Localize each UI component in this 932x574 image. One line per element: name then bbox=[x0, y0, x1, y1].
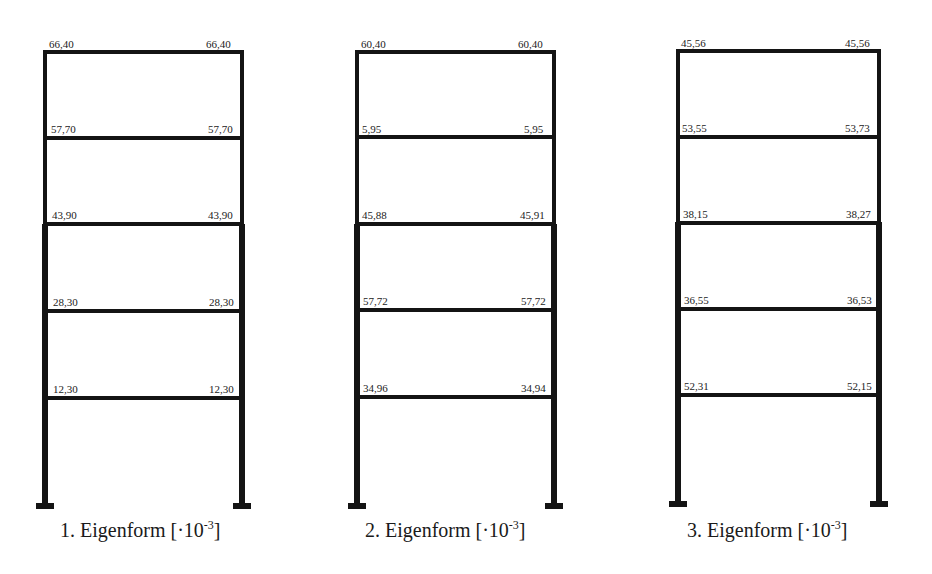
value-left-floor-4: 53,55 bbox=[682, 123, 707, 134]
beam-floor-5 bbox=[676, 49, 881, 53]
support-left bbox=[669, 501, 687, 507]
beam-floor-1 bbox=[676, 393, 881, 397]
frame-mode-3: 45,56 45,56 53,55 53,73 38,15 38,27 36,5… bbox=[0, 0, 932, 574]
beam-floor-2 bbox=[676, 307, 881, 311]
value-right-floor-2: 36,53 bbox=[847, 295, 872, 306]
caption-mode-3: 3. Eigenform [·10-3] bbox=[687, 518, 848, 542]
value-left-floor-1: 52,31 bbox=[684, 381, 709, 392]
value-left-floor-3: 38,15 bbox=[683, 209, 708, 220]
value-left-floor-5: 45,56 bbox=[681, 38, 706, 49]
column-right-lower bbox=[876, 222, 882, 504]
value-right-floor-3: 38,27 bbox=[846, 209, 871, 220]
value-right-floor-1: 52,15 bbox=[847, 381, 872, 392]
column-left-lower bbox=[675, 222, 681, 504]
support-right bbox=[870, 501, 888, 507]
value-right-floor-5: 45,56 bbox=[845, 38, 870, 49]
value-right-floor-4: 53,73 bbox=[845, 123, 870, 134]
beam-floor-4 bbox=[676, 135, 881, 139]
value-left-floor-2: 36,55 bbox=[684, 295, 709, 306]
beam-floor-3 bbox=[676, 221, 881, 225]
